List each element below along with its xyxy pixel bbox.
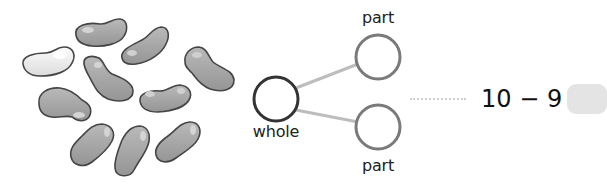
bean-icon bbox=[115, 126, 149, 176]
bean-icon bbox=[185, 47, 234, 91]
bean-icon bbox=[122, 27, 169, 64]
bean-icon bbox=[76, 19, 127, 46]
beans-illustration bbox=[0, 0, 240, 194]
bean-icon bbox=[140, 85, 191, 112]
answer-input-box[interactable] bbox=[567, 84, 607, 114]
part-top-label: part bbox=[358, 10, 398, 26]
bean-highlighted-icon bbox=[23, 47, 74, 76]
bean-icon bbox=[39, 88, 91, 121]
whole-label: whole bbox=[250, 124, 302, 140]
connector-top bbox=[296, 64, 358, 88]
part-bottom-circle[interactable] bbox=[356, 105, 400, 149]
bean-icon bbox=[71, 124, 114, 165]
connector-bottom bbox=[296, 110, 358, 122]
whole-circle[interactable] bbox=[254, 77, 298, 121]
part-bottom-label: part bbox=[358, 158, 398, 174]
part-top-circle[interactable] bbox=[356, 35, 400, 79]
bean-icon bbox=[156, 122, 200, 162]
dotted-connector bbox=[410, 98, 466, 100]
